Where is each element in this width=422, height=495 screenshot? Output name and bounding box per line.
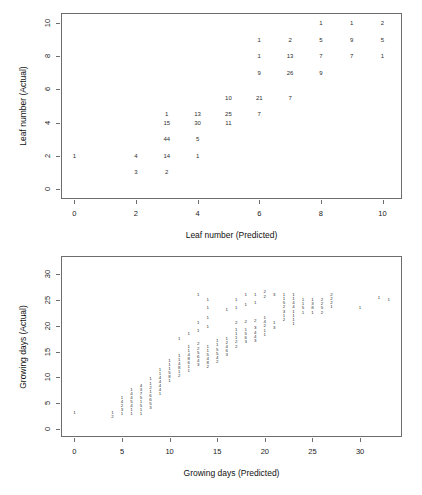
y-axis-tick [56, 189, 60, 190]
data-point-count: 2 [235, 344, 237, 348]
data-point-count: 1 [245, 303, 247, 307]
data-point-count: 1 [197, 321, 199, 325]
data-point-count: 2 [206, 365, 208, 369]
data-point-count: 5 [319, 37, 322, 43]
y-axis-tick-label: 0 [43, 427, 52, 431]
data-point-count: 2 [254, 319, 256, 323]
y-axis-tick [56, 403, 60, 404]
data-point-count: 2 [381, 20, 384, 26]
data-point-count: 1 [311, 310, 313, 314]
x-axis-tick-label: 20 [261, 447, 269, 456]
x-axis-tick [198, 200, 199, 204]
x-axis-tick-label: 25 [308, 447, 316, 456]
data-point-count: 44 [163, 136, 170, 142]
x-axis-tick-label: 5 [120, 447, 124, 456]
x-axis-tick [321, 200, 322, 204]
data-point-count: 2 [283, 318, 285, 322]
days-plot-area: 1121423114454114375151111216653114444111… [62, 257, 401, 436]
y-axis-tick [56, 300, 60, 301]
y-axis-tick [56, 56, 60, 57]
x-axis-tick [259, 200, 260, 204]
x-axis-tick [170, 438, 171, 442]
data-point-count: 2 [235, 321, 237, 325]
y-axis-tick [56, 352, 60, 353]
data-point-count: 9 [319, 70, 322, 76]
y-axis-tick [56, 274, 60, 275]
data-point-count: 1 [168, 379, 170, 383]
data-point-count: 3 [197, 363, 199, 367]
data-point-count: 1 [359, 306, 361, 310]
y-axis-tick-label: 2 [43, 154, 52, 158]
data-point-count: 1 [197, 293, 199, 297]
y-axis-title: Leaf number (Actual) [18, 66, 28, 145]
y-axis-tick [56, 429, 60, 430]
leaf-number-figure: 1431154414213305110251111921721326715791… [0, 0, 422, 250]
y-axis-tick-label: 20 [43, 322, 52, 330]
data-point-count: 1 [292, 322, 294, 326]
y-axis-tick [56, 89, 60, 90]
y-axis-tick-label: 4 [43, 120, 52, 124]
data-point-count: 1 [330, 305, 332, 309]
data-point-count: 1 [381, 53, 384, 59]
leaf-plot-area: 1431154414213305110251111921721326715791… [62, 14, 401, 198]
data-point-count: 15 [163, 120, 170, 126]
x-axis-title: Leaf number (Predicted) [186, 230, 278, 240]
x-axis-tick [74, 438, 75, 442]
y-axis-tick [56, 326, 60, 327]
x-axis-tick-label: 15 [213, 447, 221, 456]
data-point-count: 1 [165, 111, 168, 117]
y-axis-tick-label: 6 [43, 87, 52, 91]
y-axis-tick-label: 30 [43, 270, 52, 278]
data-point-count: 1 [226, 308, 228, 312]
x-axis-tick [217, 438, 218, 442]
data-point-count: 3 [254, 339, 256, 343]
data-point-count: 10 [225, 95, 232, 101]
y-axis-tick-label: 10 [43, 373, 52, 381]
data-point-count: 2 [111, 415, 113, 419]
data-point-count: 3 [273, 293, 275, 297]
data-point-count: 2 [216, 360, 218, 364]
data-point-count: 4 [134, 153, 137, 159]
data-point-count: 7 [258, 111, 261, 117]
data-point-count: 1 [254, 293, 256, 297]
data-point-count: 1 [159, 392, 161, 396]
x-axis-tick-label: 10 [378, 209, 386, 218]
data-point-count: 1 [206, 306, 208, 310]
data-point-count: 21 [256, 95, 263, 101]
data-point-count: 1 [245, 293, 247, 297]
data-point-count: 1 [206, 325, 208, 329]
growing-days-figure: 1121423114454114375151111216653114444111… [0, 250, 422, 495]
data-point-count: 2 [178, 374, 180, 378]
y-axis-tick [56, 377, 60, 378]
y-axis-tick-label: 0 [43, 187, 52, 191]
data-point-count: 1 [121, 412, 123, 416]
data-point-count: 13 [194, 111, 201, 117]
data-point-count: 1 [178, 337, 180, 341]
data-point-count: 1 [235, 306, 237, 310]
data-point-count: 1 [73, 411, 75, 415]
y-axis-tick [56, 23, 60, 24]
data-point-count: 11 [225, 120, 231, 126]
data-point-count: 1 [196, 153, 199, 159]
data-point-count: 1 [258, 53, 261, 59]
y-axis-tick-label: 10 [43, 19, 52, 27]
data-point-count: 1 [350, 20, 353, 26]
data-point-count: 1 [319, 20, 322, 26]
leaf-plot-frame: 1431154414213305110251111921721326715791… [61, 13, 402, 199]
y-axis-tick-label: 25 [43, 296, 52, 304]
x-axis-tick-label: 0 [72, 209, 76, 218]
data-point-count: 3 [273, 326, 275, 330]
data-point-count: 2 [264, 294, 266, 298]
x-axis-tick [122, 438, 123, 442]
data-point-count: 26 [287, 70, 294, 76]
data-point-count: 1 [140, 412, 142, 416]
x-axis-tick [136, 200, 137, 204]
data-point-count: 14 [163, 153, 170, 159]
x-axis-tick [74, 200, 75, 204]
data-point-count: 2 [245, 320, 247, 324]
x-axis-tick-label: 6 [257, 209, 261, 218]
data-point-count: 7 [319, 53, 322, 59]
data-point-count: 9 [258, 70, 261, 76]
data-point-count: 13 [287, 53, 294, 59]
data-point-count: 1 [197, 329, 199, 333]
